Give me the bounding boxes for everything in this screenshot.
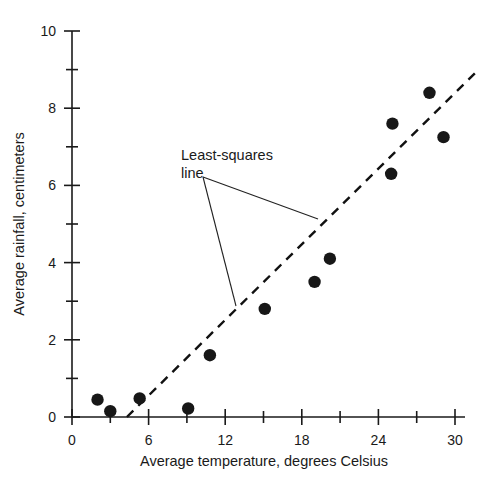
x-tick-label: 30 <box>447 432 463 448</box>
axes-group <box>72 31 465 417</box>
x-tick-label: 0 <box>68 432 76 448</box>
ticks-group <box>64 31 455 425</box>
data-point <box>437 131 449 143</box>
x-tick-label: 18 <box>294 432 310 448</box>
data-point <box>182 402 194 414</box>
leader-line <box>203 177 236 306</box>
x-tick-label: 6 <box>145 432 153 448</box>
data-point <box>104 405 116 417</box>
y-tick-label: 4 <box>48 255 56 271</box>
scatter-plot-figure: 06121824300246810 Least-squares line Ave… <box>0 0 498 482</box>
data-point <box>133 392 145 404</box>
x-tick-label: 24 <box>371 432 387 448</box>
y-tick-label: 10 <box>40 23 56 39</box>
y-tick-label: 0 <box>48 409 56 425</box>
y-tick-label: 6 <box>48 177 56 193</box>
x-axis-title: Average temperature, degrees Celsius <box>140 453 388 469</box>
data-point <box>423 87 435 99</box>
tick-labels-group: 06121824300246810 <box>40 23 463 448</box>
data-points-group <box>91 87 449 418</box>
data-point <box>385 168 397 180</box>
annotation-label-line1: Least-squares <box>181 147 273 163</box>
data-point <box>386 117 398 129</box>
data-point <box>308 276 320 288</box>
y-tick-label: 8 <box>48 100 56 116</box>
least-squares-line-path <box>127 72 477 417</box>
annotation-leader-lines <box>203 177 318 306</box>
annotation-label-line2: line <box>181 165 204 181</box>
y-tick-label: 2 <box>48 332 56 348</box>
x-tick-label: 12 <box>217 432 233 448</box>
data-point <box>259 303 271 315</box>
leader-line <box>203 177 318 219</box>
data-point <box>204 349 216 361</box>
data-point <box>91 393 103 405</box>
data-point <box>324 253 336 265</box>
least-squares-line <box>127 72 477 417</box>
y-axis-title: Average rainfall, centimeters <box>11 132 27 316</box>
plot-canvas: 06121824300246810 Least-squares line Ave… <box>0 0 498 482</box>
